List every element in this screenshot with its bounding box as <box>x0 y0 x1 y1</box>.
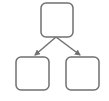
node-box-child-right <box>66 57 99 90</box>
diagram-svg <box>0 0 109 101</box>
arrow-parent-to-child-left <box>35 37 56 55</box>
edges <box>35 37 80 55</box>
nodes <box>16 3 99 90</box>
hierarchy-diagram <box>0 0 109 101</box>
arrow-parent-to-child-right <box>56 37 80 55</box>
node-box-child-left <box>16 57 49 90</box>
node-box-parent <box>41 3 73 37</box>
